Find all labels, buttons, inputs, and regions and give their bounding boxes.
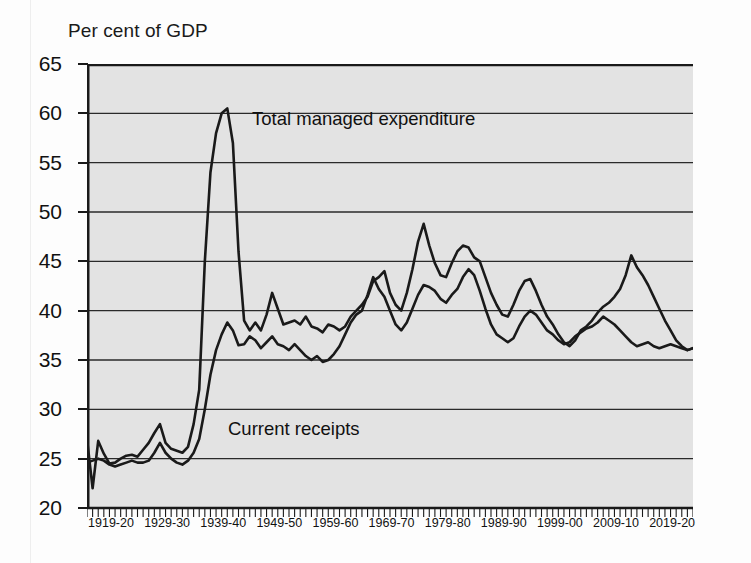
x-tick-label-1929-30: 1929-30	[144, 516, 190, 530]
x-tick-label-1969-70: 1969-70	[369, 516, 415, 530]
chart-lines	[87, 64, 693, 526]
y-tick-label-50: 50	[39, 200, 62, 224]
x-tick-label-1939-40: 1939-40	[200, 516, 246, 530]
y-tick-mark-45	[78, 260, 88, 262]
y-tick-mark-50	[78, 211, 88, 213]
x-tick-label-1999-00: 1999-00	[537, 516, 583, 530]
x-tick-label-1949-50: 1949-50	[256, 516, 302, 530]
y-tick-label-25: 25	[39, 447, 62, 471]
x-tick-label-2009-10: 2009-10	[593, 516, 639, 530]
series-label-total-managed-expenditure: Total managed expenditure	[252, 108, 475, 130]
y-tick-mark-35	[78, 359, 88, 361]
y-tick-label-45: 45	[39, 249, 62, 273]
y-tick-label-30: 30	[39, 397, 62, 421]
y-tick-mark-65	[78, 63, 88, 65]
series-label-current-receipts: Current receipts	[228, 418, 360, 440]
y-tick-label-55: 55	[39, 151, 62, 175]
y-tick-label-65: 65	[39, 52, 62, 76]
plot-area	[87, 64, 693, 508]
series-line-current-receipts	[87, 269, 693, 466]
y-tick-label-20: 20	[39, 496, 62, 520]
y-tick-mark-40	[78, 310, 88, 312]
y-tick-label-35: 35	[39, 348, 62, 372]
x-tick-label-1959-60: 1959-60	[313, 516, 359, 530]
x-tick-label-1989-90: 1989-90	[481, 516, 527, 530]
y-axis-title: Per cent of GDP	[68, 20, 208, 42]
x-tick-label-1919-20: 1919-20	[88, 516, 134, 530]
y-tick-mark-30	[78, 408, 88, 410]
y-tick-label-60: 60	[39, 101, 62, 125]
x-tick-label-2019-20: 2019-20	[649, 516, 695, 530]
series-line-total-managed-expenditure	[87, 108, 693, 488]
y-tick-mark-20	[78, 507, 88, 509]
y-tick-mark-60	[78, 112, 88, 114]
y-tick-mark-25	[78, 458, 88, 460]
y-axis-tick-labels: 20253035404550556065	[0, 0, 62, 563]
chart-figure: Per cent of GDP 20253035404550556065 Tot…	[0, 0, 751, 563]
x-tick-label-1979-80: 1979-80	[425, 516, 471, 530]
y-tick-mark-55	[78, 162, 88, 164]
y-tick-label-40: 40	[39, 299, 62, 323]
